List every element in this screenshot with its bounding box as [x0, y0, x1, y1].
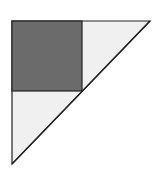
inscribed-square — [12, 21, 82, 91]
triangle-square-diagram — [0, 0, 156, 172]
